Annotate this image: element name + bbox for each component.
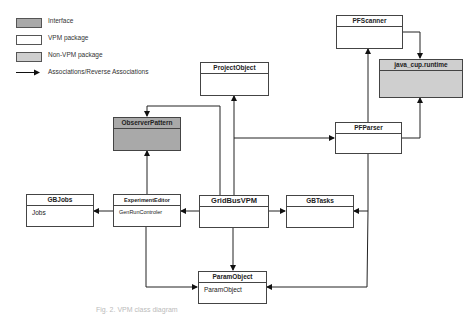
class-body bbox=[337, 27, 402, 30]
class-body: GenRunControler bbox=[114, 206, 180, 215]
class-body bbox=[114, 129, 180, 132]
class-body bbox=[287, 207, 353, 210]
class-paramobject: ParamObject ParamObject bbox=[198, 271, 267, 304]
figure-caption: Fig. 2. VPM class diagram bbox=[96, 306, 178, 313]
class-name: java_cup.runtime bbox=[380, 60, 462, 71]
class-name: ExperimentEditor bbox=[114, 195, 180, 206]
class-name: PFScanner bbox=[337, 16, 402, 27]
class-gridbusvpm: GridBusVPM bbox=[199, 195, 269, 228]
class-body bbox=[336, 134, 401, 137]
class-name: ParamObject bbox=[199, 272, 266, 283]
class-name: GBTasks bbox=[287, 196, 353, 207]
class-pfparser: PFParser bbox=[335, 122, 402, 154]
class-body bbox=[380, 71, 462, 74]
class-gbjobs: GBJobs Jobs bbox=[26, 194, 94, 227]
class-name: GBJobs bbox=[27, 195, 93, 206]
class-gbtasks: GBTasks bbox=[286, 195, 354, 228]
class-name: ProjectObject bbox=[201, 63, 268, 74]
class-java-cup-runtime: java_cup.runtime bbox=[379, 59, 463, 98]
class-pfscanner: PFScanner bbox=[336, 15, 403, 49]
class-body: ParamObject bbox=[199, 283, 266, 293]
class-name: PFParser bbox=[336, 123, 401, 134]
class-name: ObserverPattern bbox=[114, 118, 180, 129]
class-observerpattern: ObserverPattern bbox=[113, 117, 181, 151]
class-body: Jobs bbox=[27, 206, 93, 216]
class-experimenteditor: ExperimentEditor GenRunControler bbox=[113, 194, 181, 227]
class-body bbox=[201, 74, 268, 77]
association-lines bbox=[0, 0, 476, 315]
class-name: GridBusVPM bbox=[200, 196, 268, 207]
class-projectobject: ProjectObject bbox=[200, 62, 269, 96]
class-body bbox=[200, 207, 268, 210]
